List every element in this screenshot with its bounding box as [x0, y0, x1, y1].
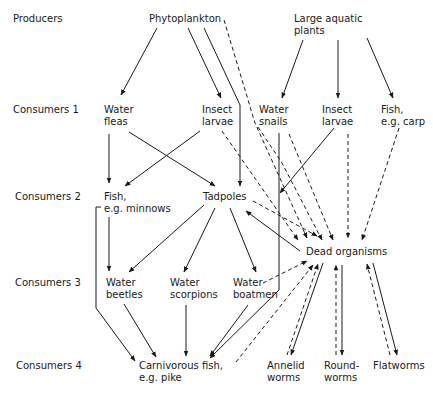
node-tadpoles: Tadpoles [203, 191, 247, 203]
arrow-water-boatmen-to-carnivorous-fish [210, 305, 248, 356]
node-large-aquatic-plants: Large aquatic plants [294, 13, 362, 37]
arrow-large-aquatic-plants-to-water-snails [282, 40, 303, 98]
arrow-tadpoles-to-water-beetles [129, 205, 204, 272]
node-phytoplankton: Phytoplankton [149, 13, 221, 25]
node-water-beetles: Water beetles [106, 277, 143, 301]
arrow-dead-organisms-to-flatworms [373, 263, 397, 355]
arrow-large-aquatic-plants-to-fish-carp [367, 38, 393, 98]
node-fish-minnows: Fish, e.g. minnows [104, 191, 171, 215]
level-label: Consumers 3 [15, 277, 81, 289]
arrow-water-beetles-to-carnivorous-fish [124, 304, 156, 357]
node-dead-organisms: Dead organisms [306, 246, 387, 258]
node-insect-larvae-2: Insect larvae [322, 104, 353, 128]
arrow-phytoplankton-to-insect-larvae-1 [188, 28, 221, 98]
arrow-phytoplankton-to-dead-organisms [224, 20, 307, 238]
node-roundworms: Round- worms [324, 360, 359, 384]
arrow-flatworms-to-dead-organisms [367, 264, 390, 355]
node-water-boatmen: Water boatmen [233, 277, 278, 301]
level-label: Producers [13, 13, 63, 25]
arrow-tadpoles-to-dead-organisms [253, 201, 317, 236]
arrow-phytoplankton-to-water-fleas [121, 28, 157, 95]
dashed-decay-arrows [222, 20, 399, 362]
node-carnivorous-fish: Carnivorous fish, e.g. pike [139, 360, 223, 384]
arrow-water-snails-to-dead-organisms [289, 134, 333, 240]
arrow-tadpoles-to-water-boatmen [230, 208, 256, 272]
arrow-insect-larvae-2-to-water-snails-line [280, 128, 334, 193]
node-annelid-worms: Annelid worms [267, 360, 305, 384]
level-label: Consumers 2 [15, 191, 81, 203]
arrow-water-snails-to-carnivorous-fish [210, 133, 279, 358]
arrow-dead-organisms-to-annelid-worms [291, 263, 323, 355]
arrow-water-snails-to-dead-organisms [258, 127, 322, 240]
arrow-tadpoles-to-water-scorpions [184, 208, 215, 272]
arrow-fish-carp-to-dead-organisms [362, 128, 399, 240]
node-water-scorpions: Water scorpions [170, 277, 218, 301]
arrow-insect-larvae-1-to-fish-minnows [125, 131, 200, 186]
node-insect-larvae-1: Insect larvae [202, 104, 233, 128]
node-water-snails: Water snails [259, 104, 289, 128]
arrow-water-fleas-to-tadpoles [129, 132, 215, 186]
node-fish-carp: Fish, e.g. carp [381, 104, 425, 128]
level-label: Consumers 4 [16, 360, 82, 372]
level-label: Consumers 1 [13, 104, 79, 116]
node-water-fleas: Water fleas [104, 104, 134, 128]
node-flatworms: Flatworms [373, 360, 425, 372]
